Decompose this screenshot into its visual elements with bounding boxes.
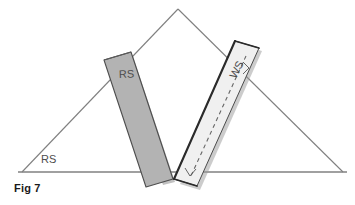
label-roof-slope-baseline: RS (41, 153, 56, 165)
roof-truss-diagram: RS RS WS (0, 0, 355, 205)
figure-caption: Fig 7 (14, 182, 41, 194)
roof-triangle-group (18, 9, 347, 172)
bar-left-group (104, 52, 175, 187)
label-bar-left-rs: RS (119, 67, 135, 80)
bar-left-body (104, 52, 173, 187)
figure-root: RS RS WS Fig 7 (0, 0, 355, 205)
bar-right-body (174, 41, 259, 186)
bar-right-group (174, 41, 262, 190)
